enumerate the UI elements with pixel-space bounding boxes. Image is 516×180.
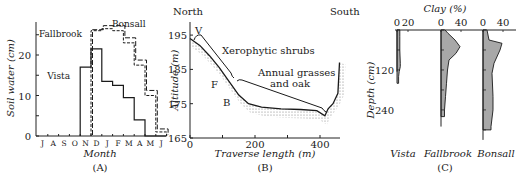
month-tick-label: S: [61, 139, 66, 148]
panel-b-altitude-chart: 1651751851950200400 North South Altitude…: [168, 6, 360, 173]
month-tick-label: M: [147, 139, 155, 148]
xerophytic-bracket: [194, 35, 234, 78]
panel-b-y-label: Altitude (m): [169, 49, 180, 111]
y-tick-label: 165: [168, 133, 187, 144]
site-f-marker: F: [211, 79, 218, 90]
series-vista: [80, 49, 166, 136]
clay-tick-label: 0: [394, 17, 400, 28]
south-label: South: [330, 6, 360, 17]
panel-b-x-label: Traverse length (m): [215, 148, 316, 159]
month-tick-label: O: [72, 139, 78, 148]
x-tick-label: 0: [187, 139, 193, 150]
series-bonsall: [93, 26, 169, 135]
clay-profile-bonsall: [483, 30, 502, 130]
clay-tick-label: 40: [455, 17, 468, 28]
clay-tick-label: 20: [402, 17, 415, 28]
panel-a-label: (A): [92, 162, 107, 173]
month-tick-label: A: [49, 139, 56, 148]
panel-c-label: (C): [437, 162, 453, 173]
column-label-vista: Vista: [390, 148, 415, 159]
y-tick-label: 10: [18, 91, 31, 102]
panel-c-y-label: Depth (cm): [365, 61, 376, 119]
clay-tick-label: 40: [497, 17, 510, 28]
month-tick-label: M: [125, 139, 133, 148]
panel-a-y-label: Soil water (cm): [5, 39, 16, 117]
panel-a-series: [80, 26, 168, 136]
xerophytic-shrubs-label: Xerophytic shrubs: [222, 45, 315, 56]
series-fallbrook: [91, 29, 167, 136]
month-tick-label: J: [159, 139, 163, 148]
month-tick-label: N: [82, 139, 89, 148]
month-tick-label: D: [93, 139, 99, 148]
clay-tick-label: 0: [438, 17, 444, 28]
site-b-marker: B: [223, 97, 230, 108]
month-tick-label: A: [136, 139, 143, 148]
y-tick-label: 0: [25, 131, 31, 142]
month-tick-label: J: [40, 139, 44, 148]
panel-c-title: Clay (%): [424, 3, 467, 14]
clay-tick-label: 0: [480, 17, 486, 28]
panel-c-clay-profile: Clay (%) 020040040 120240 Depth (cm) Vis…: [365, 3, 516, 173]
column-label-fallbrook: Fallbrook: [423, 148, 472, 159]
panel-c-columns: 020040040: [394, 17, 510, 140]
panel-a-soil-water-chart: 01020 JASONDJFMAMJ Soil water (cm) Month…: [5, 19, 168, 173]
clay-profile-fallbrook: [441, 30, 460, 117]
site-v-marker: V: [194, 25, 203, 36]
y-tick-label: 195: [168, 30, 187, 41]
panel-a-x-label: Month: [82, 148, 116, 159]
month-tick-label: F: [115, 139, 120, 148]
panel-b-label: (B): [257, 162, 272, 173]
figure: 01020 JASONDJFMAMJ Soil water (cm) Month…: [0, 0, 516, 180]
depth-tick-label: 120: [375, 65, 394, 76]
depth-tick-label: 240: [375, 105, 394, 116]
column-label-bonsall: Bonsall: [476, 148, 514, 159]
y-tick-label: 20: [18, 50, 31, 61]
annual-grasses-label: Annual grassesand oak: [257, 67, 335, 89]
annotation-fallbrook: Fallbrook: [39, 29, 83, 39]
month-tick-label: J: [105, 139, 109, 148]
annotation-vista: Vista: [46, 71, 70, 81]
annotation-bonsall: Bonsall: [112, 19, 146, 29]
north-label: North: [173, 6, 204, 17]
panel-c-depth-ticks: 120240: [375, 65, 394, 116]
